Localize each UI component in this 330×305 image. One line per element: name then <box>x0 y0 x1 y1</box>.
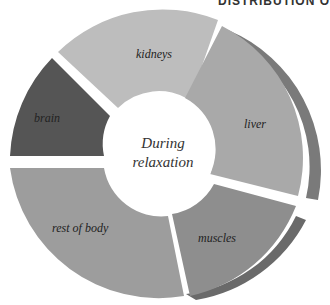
label-brain: brain <box>34 111 60 125</box>
label-rest-of-body: rest of body <box>52 221 109 235</box>
label-liver: liver <box>244 117 266 131</box>
center-title-line1: During <box>140 135 185 151</box>
label-muscles: muscles <box>198 231 236 245</box>
center-title-line2: relaxation <box>132 154 193 170</box>
label-kidneys: kidneys <box>136 47 172 61</box>
